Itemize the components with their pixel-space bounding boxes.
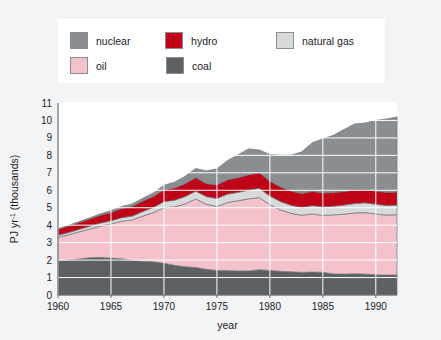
x-tick-label-1975: 1975 [206, 301, 229, 312]
legend-row-top: nuclear hydro natural gas [70, 28, 385, 53]
y-tick-label-7: 7 [46, 167, 52, 178]
x-tick-label-1970: 1970 [153, 301, 176, 312]
chart-legend: nuclear hydro natural gas oil coal [58, 19, 385, 83]
plot-area-wrapper: 01234567891011 1960196519701975198019851… [0, 88, 441, 340]
legend-label-oil: oil [96, 60, 107, 72]
legend-item-coal: coal [166, 57, 278, 74]
legend-row-bottom: oil coal [70, 53, 385, 78]
y-tick-label-0: 0 [46, 290, 52, 301]
x-tick-label-1980: 1980 [259, 301, 282, 312]
legend-label-nuclear: nuclear [96, 35, 130, 47]
x-tick-label-1965: 1965 [100, 301, 123, 312]
legend-label-natural-gas: natural gas [302, 35, 354, 47]
legend-label-hydro: hydro [191, 35, 217, 47]
y-tick-label-2: 2 [46, 255, 52, 266]
y-tick-label-10: 10 [41, 115, 53, 126]
legend-item-hydro: hydro [165, 32, 276, 49]
legend-swatch-coal [166, 57, 184, 74]
legend-swatch-nuclear [70, 32, 88, 49]
y-tick-label-6: 6 [46, 185, 52, 196]
x-tick-label-1985: 1985 [312, 301, 335, 312]
x-tick-label-group: 1960196519701975198019851990 [47, 295, 387, 312]
y-tick-label-group: 01234567891011 [41, 98, 53, 301]
figure-container: nuclear hydro natural gas oil coal [0, 0, 441, 340]
legend-item-nuclear: nuclear [70, 32, 165, 49]
y-tick-label-9: 9 [46, 132, 52, 143]
y-tick-label-3: 3 [46, 237, 52, 248]
y-tick-label-8: 8 [46, 150, 52, 161]
legend-swatch-hydro [165, 32, 183, 49]
y-tick-label-1: 1 [46, 272, 52, 283]
y-tick-label-4: 4 [46, 220, 52, 231]
x-tick-label-1960: 1960 [47, 301, 70, 312]
legend-item-natural-gas: natural gas [276, 32, 385, 49]
legend-swatch-natural-gas [276, 32, 294, 49]
y-tick-label-5: 5 [46, 202, 52, 213]
x-tick-label-1990: 1990 [365, 301, 388, 312]
y-axis-title: PJ yr-1 (thousands) [8, 155, 20, 244]
legend-item-oil: oil [70, 57, 166, 74]
stacked-area-chart: 01234567891011 1960196519701975198019851… [0, 88, 441, 340]
legend-swatch-oil [70, 57, 88, 74]
x-axis-title: year [217, 319, 238, 331]
legend-label-coal: coal [192, 60, 211, 72]
y-tick-label-11: 11 [42, 98, 53, 109]
